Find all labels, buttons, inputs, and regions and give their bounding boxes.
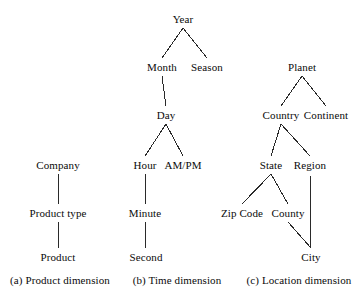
node-location-country: Country: [263, 110, 300, 121]
caption-time: (b) Time dimension: [133, 275, 222, 286]
node-location-city: City: [301, 252, 320, 263]
node-location-state: State: [260, 160, 283, 171]
node-time-year: Year: [173, 14, 194, 25]
edge-time-minute-to-second: [145, 222, 146, 248]
node-time-ampm: AM/PM: [164, 160, 201, 171]
node-time-month: Month: [147, 62, 177, 73]
node-location-zipcode: Zip Code: [221, 208, 263, 219]
edge-location-planet-to-continent: [302, 76, 326, 106]
concept-hierarchy-figure: CompanyProduct typeProductYearMonthSeaso…: [0, 0, 364, 295]
edge-location-country-to-state: [271, 124, 281, 156]
edge-time-day-to-hour: [145, 124, 166, 156]
edge-location-planet-to-country: [281, 76, 302, 106]
node-product-product: Product: [41, 252, 76, 263]
edge-location-county-to-city: [288, 222, 311, 248]
node-product-company: Company: [36, 160, 79, 171]
edge-location-state-to-zipcode: [242, 174, 271, 204]
node-location-county: County: [272, 208, 305, 219]
node-location-planet: Planet: [288, 62, 316, 73]
caption-location: (c) Location dimension: [247, 275, 352, 286]
edge-time-year-to-season: [183, 28, 207, 58]
node-time-minute: Minute: [129, 208, 161, 219]
edge-location-region-to-city: [310, 174, 311, 248]
edge-time-year-to-month: [162, 28, 183, 58]
node-location-region: Region: [294, 160, 326, 171]
edge-location-country-to-region: [281, 124, 310, 156]
node-time-hour: Hour: [133, 160, 156, 171]
node-time-second: Second: [130, 252, 163, 263]
edge-location-state-to-county: [271, 174, 288, 204]
node-product-product_type: Product type: [29, 208, 86, 219]
node-time-season: Season: [191, 62, 223, 73]
edge-time-month-to-day: [162, 76, 166, 106]
node-time-day: Day: [157, 110, 176, 121]
edge-time-day-to-ampm: [166, 124, 183, 156]
caption-product: (a) Product dimension: [10, 275, 110, 286]
node-location-continent: Continent: [304, 110, 348, 121]
